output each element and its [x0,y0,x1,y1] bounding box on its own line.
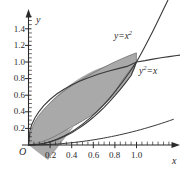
curve-label-y-equals-x-squared: y=x2 [114,31,132,41]
y-tick-label-2: 0.6 [6,90,25,100]
curve-label-y-squared-equals-x: y2=x [139,66,157,76]
y-tick-label-5: 1.2 [6,40,25,50]
x-tick-label-2: 0.6 [83,150,104,160]
y-tick-label-1: 0.4 [6,106,25,116]
x-tick-label-3: 0.8 [104,150,125,160]
y-tick-label-0: 0.2 [6,123,25,133]
curve-label-text-1: y2=x [139,66,157,76]
x-tick-label-1: 0.4 [61,150,82,160]
y-tick-label-4: 1.0 [6,57,25,67]
curve-label-text-0: y=x2 [114,31,132,41]
y-axis-label: y [36,14,40,25]
y-tick-label-3: 0.8 [6,73,25,83]
x-axis-label: x [172,155,176,166]
x-tick-label-4: 1.0 [126,150,147,160]
origin-label: O [19,146,26,157]
x-tick-label-0: 0.2 [40,150,61,160]
y-tick-label-6: 1.4 [6,24,25,34]
